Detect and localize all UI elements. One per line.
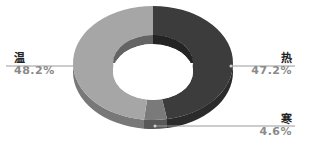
label-hot-pct: 47.2% xyxy=(251,65,292,77)
label-cold: 寒 4.6% xyxy=(259,114,292,138)
label-hot: 热 47.2% xyxy=(251,53,292,77)
label-warm-pct: 48.2% xyxy=(14,65,55,77)
label-cold-pct: 4.6% xyxy=(259,126,292,138)
label-warm: 温 48.2% xyxy=(14,53,55,77)
slice-side-寒 xyxy=(144,119,167,129)
